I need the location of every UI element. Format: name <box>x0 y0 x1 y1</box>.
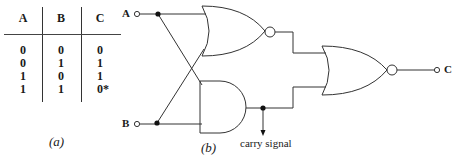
junction-dot <box>260 105 265 110</box>
input-b-label: B <box>122 117 129 129</box>
input-a-terminal <box>134 11 139 16</box>
junction-dot <box>155 11 160 16</box>
carry-signal-label: carry signal <box>240 137 292 149</box>
nor-gate-2-bubble <box>387 65 397 75</box>
output-c-label: C <box>444 63 452 75</box>
and-gate <box>200 81 246 133</box>
nor-gate-1 <box>202 6 265 56</box>
input-b-terminal <box>134 121 139 126</box>
carry-arrow-icon <box>261 130 266 136</box>
input-a-label: A <box>122 7 130 19</box>
circuit-diagram <box>0 0 455 160</box>
output-c-terminal <box>434 67 439 72</box>
nor-gate-2 <box>322 46 387 95</box>
caption-b: (b) <box>201 140 216 156</box>
nor-gate-1-bubble <box>265 27 275 37</box>
junction-dot <box>154 120 159 125</box>
